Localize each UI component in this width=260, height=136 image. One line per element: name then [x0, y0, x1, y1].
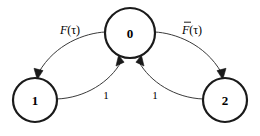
- state-transition-diagram: 0 1 2 F(τ) F(τ) 1 1: [0, 0, 260, 136]
- node-1[interactable]: 1: [13, 78, 57, 122]
- edge-0-to-2: [155, 32, 226, 80]
- edge-2-to-0-path: [139, 62, 203, 99]
- edge-0-to-1-path: [39, 32, 105, 72]
- node-0-label: 0: [127, 26, 134, 41]
- edge-0-to-1-label-arg: (τ): [67, 23, 80, 37]
- edge-0-to-2-label: F(τ): [181, 22, 202, 37]
- diagram-canvas: 0 1 2 F(τ) F(τ) 1 1: [0, 0, 260, 136]
- node-0[interactable]: 0: [105, 8, 155, 58]
- edge-2-to-0-label-text: 1: [152, 89, 158, 101]
- edge-0-to-2-label-arg: (τ): [189, 23, 202, 37]
- edge-1-to-0-path: [57, 62, 121, 99]
- edge-0-to-1-label: F(τ): [59, 23, 80, 37]
- edge-1-to-0: [57, 55, 124, 99]
- node-1-label: 1: [32, 93, 39, 108]
- edge-0-to-2-label-text: F(τ): [181, 23, 202, 37]
- edge-1-to-0-label-text: 1: [103, 89, 109, 101]
- edge-0-to-1-label-text: F(τ): [59, 23, 80, 37]
- edge-1-to-0-label: 1: [103, 89, 109, 101]
- edge-0-to-1: [34, 32, 105, 80]
- edge-2-to-0-label: 1: [152, 89, 158, 101]
- edge-0-to-2-path: [155, 32, 221, 72]
- node-2-label: 2: [222, 93, 229, 108]
- node-2[interactable]: 2: [203, 78, 247, 122]
- edge-2-to-0: [136, 55, 203, 99]
